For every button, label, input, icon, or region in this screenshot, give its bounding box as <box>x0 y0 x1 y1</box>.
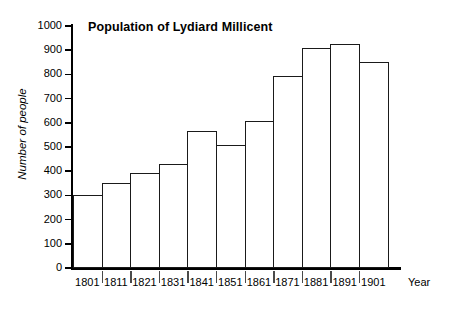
y-axis-tick <box>65 146 72 148</box>
bar <box>73 195 103 268</box>
y-axis-tick-label: 0 <box>0 261 62 273</box>
y-axis-tick-label: 1000 <box>0 19 62 31</box>
y-axis-tick-label: 900 <box>0 43 62 55</box>
plot-area <box>73 26 388 268</box>
y-axis-tick <box>65 267 72 269</box>
y-axis-tick-label: 600 <box>0 116 62 128</box>
x-axis-title: Year <box>408 276 430 288</box>
bar <box>130 173 160 268</box>
y-axis-tick <box>65 170 72 172</box>
y-axis-tick-label: 400 <box>0 164 62 176</box>
y-axis-tick <box>65 98 72 100</box>
y-axis-tick-label: 500 <box>0 140 62 152</box>
bar <box>102 183 132 268</box>
bar <box>302 48 332 268</box>
bar <box>359 62 389 268</box>
bar <box>159 164 189 268</box>
y-axis-tick <box>65 49 72 51</box>
y-axis-tick-label: 100 <box>0 237 62 249</box>
bar <box>187 131 217 268</box>
y-axis-tick <box>65 25 72 27</box>
bar-chart: Population of Lydiard Millicent Number o… <box>0 0 460 314</box>
bar <box>245 121 275 268</box>
y-axis-tick <box>65 74 72 76</box>
bar <box>273 76 303 268</box>
bar <box>330 44 360 268</box>
y-axis-tick <box>65 195 72 197</box>
y-axis-tick-label: 200 <box>0 213 62 225</box>
y-axis-tick <box>65 219 72 221</box>
y-axis-tick <box>65 243 72 245</box>
y-axis-tick <box>65 122 72 124</box>
y-axis-tick-label: 800 <box>0 67 62 79</box>
bar <box>216 145 246 268</box>
y-axis-tick-label: 700 <box>0 92 62 104</box>
y-axis-tick-label: 300 <box>0 188 62 200</box>
x-axis-tick-label: 1901 <box>353 276 393 288</box>
